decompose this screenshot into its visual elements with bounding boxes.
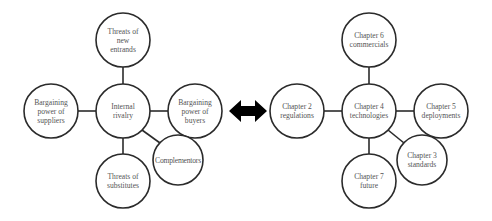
label-chapter-5: Chapter 5 deployments — [414, 84, 468, 138]
label-chapter-2: Chapter 2 regulations — [270, 84, 324, 138]
label-threats-substitutes: Threats of substitutes — [96, 154, 150, 208]
label-complementors: Complementors — [153, 135, 203, 185]
double-headed-arrow-icon — [229, 100, 267, 122]
label-chapter-4: Chapter 4 technologies — [342, 84, 396, 138]
label-threats-new-entrants: Threats of new entrands — [96, 13, 150, 67]
label-bargaining-suppliers: Bargaining power of suppliers — [24, 84, 78, 138]
label-internal-rivalry: Internal rivalry — [96, 84, 150, 138]
label-chapter-3: Chapter 3 standards — [397, 135, 447, 185]
label-chapter-6: Chapter 6 commercials — [342, 13, 396, 67]
label-chapter-7: Chapter 7 future — [342, 154, 396, 208]
label-bargaining-buyers: Bargaining power of buyers — [168, 84, 222, 138]
